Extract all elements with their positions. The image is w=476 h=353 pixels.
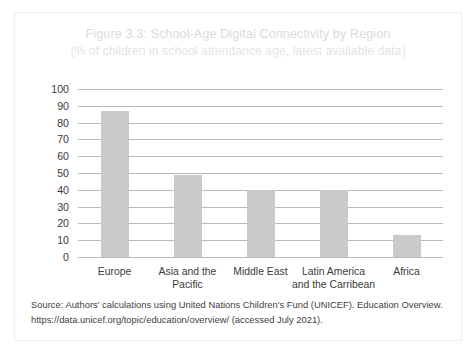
gridline [78,106,443,107]
y-axis-tick-label: 10 [57,234,69,246]
source-note: Source: Authors' calculations using Unit… [31,298,451,327]
y-axis-tick-label: 20 [57,217,69,229]
y-axis-tick-label: 0 [63,251,69,263]
y-axis-tick-label: 70 [57,133,69,145]
x-axis-tick-label: Europe [98,265,132,278]
y-axis-tick-label: 30 [57,201,69,213]
bar [393,235,421,257]
bar [174,175,202,257]
figure-screenshot: Figure 3.3: School-Age Digital Connectiv… [0,0,476,353]
y-axis-tick-label: 50 [57,167,69,179]
y-axis-tick-label: 80 [57,117,69,129]
y-axis-tick-label: 90 [57,100,69,112]
source-note-line-2: https://data.unicef.org/topic/education/… [31,313,451,328]
x-axis-tick-label: Asia and the Pacific [159,265,217,291]
x-axis-tick-label: Africa [393,265,420,278]
y-axis-tick-label: 100 [51,83,69,95]
gridline [78,89,443,90]
plot-area: 1009080706050403020100 EuropeAsia and th… [78,89,443,257]
gridline [78,257,443,258]
y-axis-tick-label: 60 [57,150,69,162]
bar [247,190,275,257]
bar [101,111,129,257]
bar [320,190,348,257]
y-axis-tick-label: 40 [57,184,69,196]
gridline [78,123,443,124]
x-axis-tick-label: Middle East [233,265,287,278]
gridline [78,156,443,157]
gridline [78,173,443,174]
gridline [78,139,443,140]
x-axis-tick-label: Latin America and the Carribean [292,265,375,291]
source-note-line-1: Source: Authors' calculations using Unit… [31,298,451,313]
